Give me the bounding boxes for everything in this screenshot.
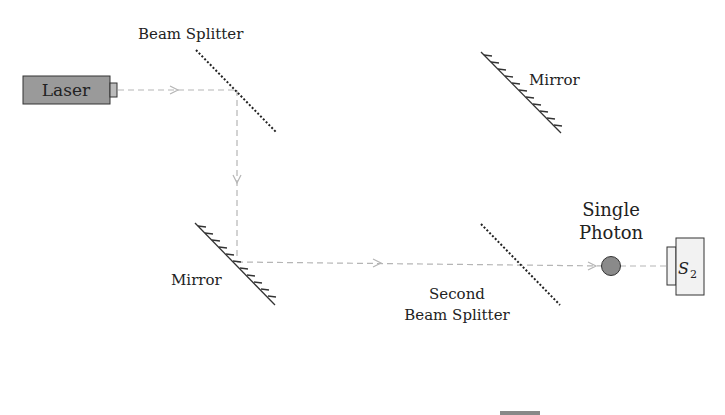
beam-splitter-2-label-line2: Beam Splitter: [404, 306, 510, 324]
beam-splitter-1: Beam Splitter: [138, 25, 276, 132]
beam-splitter-2: Second Beam Splitter: [404, 224, 560, 324]
beam-arrow-icon: [170, 86, 596, 270]
single-photon: Single Photon: [579, 199, 644, 276]
interferometer-diagram: Laser Beam Splitter Mirror: [0, 0, 725, 415]
laser: Laser: [23, 76, 117, 104]
beam-splitter-2-label-line1: Second: [429, 285, 485, 303]
mirror-top: [481, 52, 562, 133]
detector-subscript: 2: [690, 268, 697, 281]
mirror-top-label: Mirror: [529, 71, 581, 89]
mirror-bottom-label: Mirror: [171, 271, 223, 289]
photon-label-line1: Single: [582, 199, 640, 220]
mirror-bottom: [195, 223, 276, 305]
laser-label: Laser: [42, 80, 91, 100]
detector-label: S: [678, 259, 689, 278]
detector-s2: S 2: [667, 238, 704, 295]
mirror-hatch-icon: [484, 55, 562, 126]
photon-label-line2: Photon: [579, 222, 644, 243]
partial-component: [500, 411, 540, 415]
beam-splitter-1-label: Beam Splitter: [138, 25, 244, 43]
